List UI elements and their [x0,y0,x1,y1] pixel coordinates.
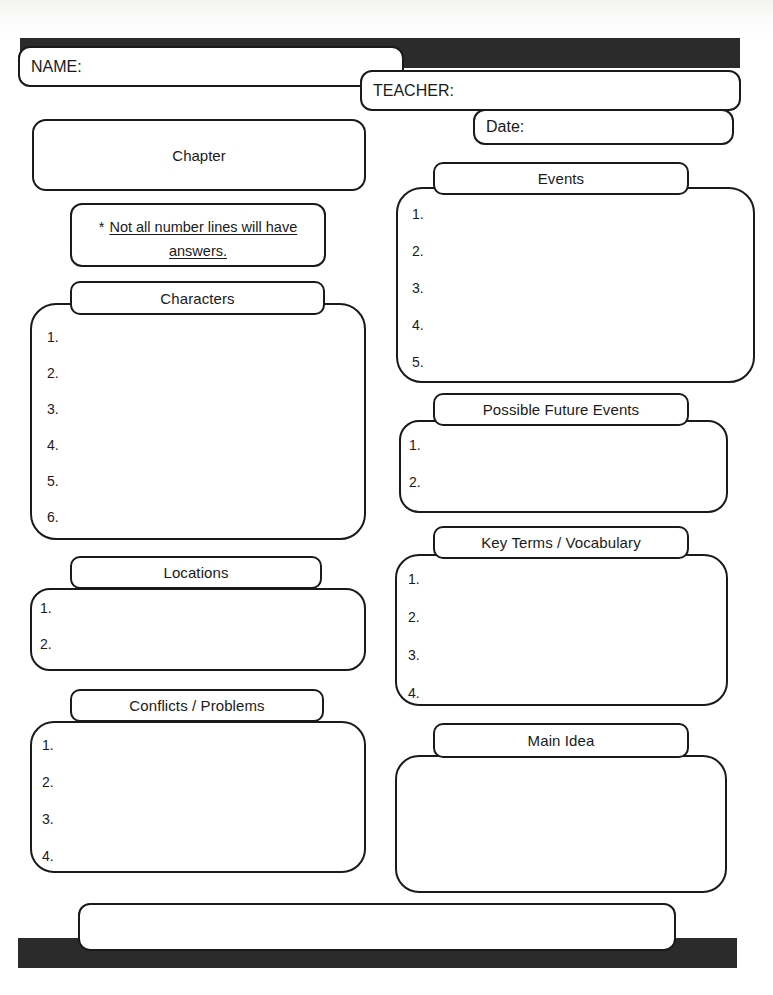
events-label: Events [538,171,584,186]
locations-body[interactable] [30,588,366,671]
conflicts-header-tab: Conflicts / Problems [70,689,324,722]
key-terms-label: Key Terms / Vocabulary [481,535,641,550]
name-field-label: NAME: [20,59,82,75]
locations-label: Locations [163,565,228,580]
future-events-label: Possible Future Events [483,402,639,417]
key-terms-header-tab: Key Terms / Vocabulary [433,526,689,559]
characters-label: Characters [160,291,234,306]
note-box: *Not all number lines will have answers. [70,203,326,267]
chapter-box[interactable]: Chapter [32,119,366,191]
characters-header-tab: Characters [70,281,325,315]
name-field[interactable]: NAME: [18,46,404,87]
main-idea-label: Main Idea [528,733,595,748]
footer-note-box[interactable] [78,903,676,951]
main-idea-header-tab: Main Idea [433,723,689,758]
events-header-tab: Events [433,162,689,195]
note-text-second-line: answers. [72,240,324,262]
date-field[interactable]: Date: [473,109,734,145]
note-line-1: Not all number lines will have [109,219,297,235]
chapter-label: Chapter [34,148,364,163]
note-line-2: answers. [169,243,227,259]
worksheet-page: NAME: TEACHER: Date: Chapter *Not all nu… [0,0,773,995]
conflicts-body[interactable] [30,721,366,873]
date-field-label: Date: [475,119,524,135]
note-text: *Not all number lines will have [72,216,324,238]
main-idea-body[interactable] [395,755,727,893]
teacher-field[interactable]: TEACHER: [360,70,741,111]
characters-body[interactable] [30,303,366,540]
locations-header-tab: Locations [70,556,322,589]
note-asterisk: * [99,219,105,235]
events-body[interactable] [396,187,755,383]
key-terms-body[interactable] [395,554,728,706]
future-events-header-tab: Possible Future Events [433,393,689,426]
teacher-field-label: TEACHER: [362,83,454,99]
future-events-body[interactable] [399,420,728,513]
conflicts-label: Conflicts / Problems [129,698,264,713]
